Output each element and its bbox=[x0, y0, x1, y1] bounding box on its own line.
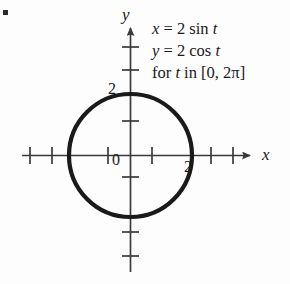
math-variable: x bbox=[152, 19, 159, 38]
equation-annotation-block: x = 2 sin t y = 2 cos t for t in [0, 2π] bbox=[152, 18, 288, 83]
equation-line-y: y = 2 cos t bbox=[152, 40, 288, 62]
equation-line-x: x = 2 sin t bbox=[152, 18, 288, 40]
math-variable: t bbox=[213, 19, 218, 38]
math-variable: t bbox=[215, 41, 220, 60]
equation-line-domain: for t in [0, 2π] bbox=[152, 62, 288, 84]
math-variable: t bbox=[175, 63, 180, 82]
math-variable: y bbox=[152, 41, 159, 60]
parametric-circle-figure: y x 2 2 0 x = 2 sin t y = 2 cos t for t … bbox=[0, 0, 290, 284]
origin-label: 0 bbox=[112, 152, 120, 168]
x-axis-label: x bbox=[262, 146, 270, 163]
y-axis-label: y bbox=[122, 6, 130, 23]
x-axis-tick-label-2: 2 bbox=[184, 159, 192, 175]
y-axis-tick-label-2: 2 bbox=[108, 81, 116, 97]
